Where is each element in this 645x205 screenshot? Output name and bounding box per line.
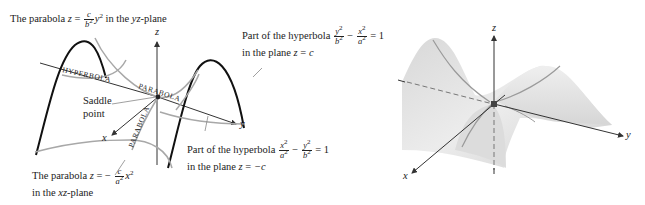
left-y-axis-label: y [240, 118, 245, 129]
label-text: The parabola [32, 170, 90, 181]
frac-den-exp: 2 [284, 148, 288, 156]
frac-num-exp: 2 [284, 138, 288, 146]
right-x-axis-label: x [403, 170, 408, 181]
right-saddle-surface [398, 36, 623, 174]
label-eq: = [298, 47, 309, 58]
fraction: ca2 [115, 167, 125, 186]
hyperbola-z-minus-c-label: Part of the hyperbola x2a2 − y2b2 = 1 in… [187, 141, 329, 173]
frac-den-exp: 2 [362, 34, 366, 42]
saddle-line1: Saddle [83, 95, 112, 106]
label-eq: = [72, 13, 83, 24]
frac-den-exp: 2 [339, 34, 343, 42]
label-text: Part of the hyperbola [187, 144, 278, 155]
frac-num-exp: 2 [362, 24, 366, 32]
label-eq: = − [94, 170, 114, 181]
label-line2: in the plane [242, 47, 294, 58]
xz-parabola-curve [35, 140, 172, 168]
right-saddle-point [491, 101, 497, 107]
label-plane: yz [132, 13, 141, 24]
label-line2: in the [32, 187, 58, 198]
frac-num-exp: 2 [339, 24, 343, 32]
label-minus: − [290, 144, 301, 155]
yz-parabola-label: The parabola z = cb2y2 in the yz-plane [10, 10, 167, 29]
fraction-2: y2b2 [302, 141, 312, 160]
saddle-line2: point [83, 108, 105, 119]
fraction-2: x2a2 [357, 27, 367, 46]
label-plane-suffix: -plane [141, 13, 167, 24]
xz-parabola-label: The parabola z = − ca2x2 in the xz-plane [32, 167, 133, 199]
frac-den-exp: 2 [89, 17, 93, 25]
label-tail-exp: 2 [130, 169, 134, 177]
label-minus: − [345, 30, 356, 41]
leader-saddle [112, 97, 156, 104]
frac-den-exp: 2 [307, 148, 311, 156]
right-z-axis-label: z [492, 22, 496, 33]
hyperbola-z-c-label: Part of the hyperbola y2b2 − x2a2 = 1 in… [242, 27, 384, 59]
fraction-1: y2b2 [334, 27, 344, 46]
fraction-1: x2a2 [279, 141, 289, 160]
leader-lower-right [205, 116, 208, 131]
hyperbola-curve-label: HYPERBOLA [62, 65, 112, 84]
frac-den-exp: 2 [120, 174, 124, 182]
label-val: c [309, 47, 314, 58]
label-suffix: in the [103, 13, 132, 24]
fraction: cb2 [84, 10, 94, 29]
leader-upper-right [253, 68, 262, 77]
label-equals: = 1 [368, 30, 384, 41]
parabola-upper-curve-label: PARABOLA [137, 81, 181, 103]
saddle-point-label: Saddle point [83, 94, 112, 120]
label-line2: in the plane [187, 161, 239, 172]
label-plane-suffix: -plane [67, 187, 93, 198]
frac-num-exp: 2 [307, 138, 311, 146]
left-x-axis-label: x [102, 132, 107, 143]
right-y-axis-label: y [626, 129, 631, 140]
label-eq: = [243, 161, 254, 172]
label-plane: xz [58, 187, 67, 198]
label-equals: = 1 [313, 144, 329, 155]
label-text: The parabola [10, 13, 68, 24]
label-text: Part of the hyperbola [242, 30, 333, 41]
label-val: −c [254, 161, 266, 172]
